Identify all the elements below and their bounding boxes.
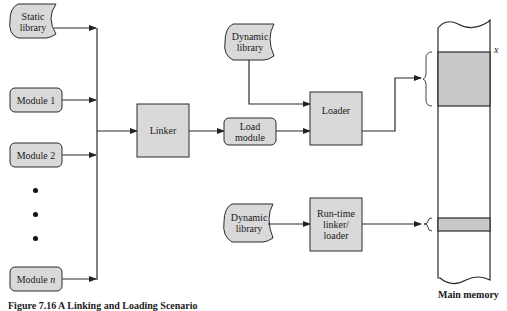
module-2: Module 2 (10, 143, 62, 167)
dynamic-library-top-label-line2: library (237, 42, 264, 53)
load-module-label-line1: Load (240, 121, 261, 132)
loader: Loader (310, 92, 362, 128)
address-marker-x: x (494, 44, 498, 55)
runtime-label-line1: Run-time (317, 208, 355, 219)
ellipsis-dot (33, 236, 38, 241)
dynamic-library-bottom-label-line2: library (236, 223, 263, 234)
dynamic-library-top-label-line1: Dynamic (232, 31, 269, 42)
runtime-label-line3: loader (324, 230, 349, 241)
static-library-label: Static library (12, 11, 54, 33)
linker: Linker (137, 104, 189, 157)
figure-caption: Figure 7.16 A Linking and Loading Scenar… (8, 300, 198, 311)
ellipsis-dot (33, 212, 38, 217)
dynamic-library-bottom: Dynamic library (227, 206, 271, 240)
load-module-label-line2: module (235, 132, 265, 143)
runtime-label-line2: linker/ (323, 219, 349, 230)
brace-lower (424, 218, 432, 231)
dynamic-library-top: Dynamic library (228, 26, 272, 58)
module-n: Module n (10, 267, 62, 291)
runtime-linker-loader: Run-time linker/ loader (310, 198, 362, 251)
module-1: Module 1 (10, 88, 62, 112)
module-n-label: Module (17, 274, 51, 285)
load-module: Load module (224, 118, 276, 145)
memory-block-runtime (438, 218, 490, 231)
dynamic-library-bottom-label-line1: Dynamic (231, 212, 268, 223)
brace-upper (423, 52, 432, 106)
module-2-label: Module 2 (17, 150, 56, 161)
static-library: Static library (12, 8, 54, 36)
module-n-variable: n (50, 274, 55, 285)
linker-label: Linker (150, 125, 177, 136)
module-1-label: Module 1 (17, 95, 56, 106)
main-memory-label: Main memory (438, 289, 499, 300)
ellipsis-dot (33, 188, 38, 193)
memory-block-loaded (438, 52, 490, 106)
loader-label: Loader (322, 105, 350, 116)
